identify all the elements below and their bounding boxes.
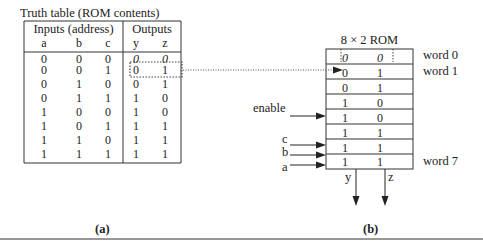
input-c-label: c — [282, 132, 288, 146]
col-header-b: b — [69, 36, 89, 50]
input-b-label: b — [282, 145, 288, 159]
inputs-header: Inputs (address) — [24, 22, 123, 36]
outputs-header: Outputs — [123, 22, 181, 36]
word-1-label: word 1 — [423, 64, 458, 78]
input-a-label: a — [282, 160, 288, 174]
col-header-y: y — [126, 36, 146, 50]
caption-b: (b) — [363, 222, 378, 236]
truth-table-title: Truth table (ROM contents) — [20, 6, 159, 20]
word-0-label: word 0 — [423, 48, 458, 62]
word-7-label: word 7 — [423, 154, 458, 168]
rom-title: 8 × 2 ROM — [326, 33, 413, 47]
output-z-label: z — [388, 170, 394, 184]
output-y-label: y — [345, 170, 351, 184]
col-header-a: a — [34, 36, 54, 50]
col-header-c: c — [98, 36, 118, 50]
col-header-z: z — [155, 36, 175, 50]
caption-a: (a) — [95, 222, 110, 236]
enable-label: enable — [253, 101, 286, 115]
